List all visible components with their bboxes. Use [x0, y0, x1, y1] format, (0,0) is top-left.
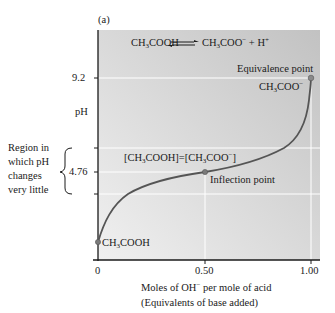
- equality-label: [CH3COOH]=[CH3COO−]: [124, 152, 236, 163]
- y-tick-4.76: 4.76: [69, 166, 87, 177]
- equivalence-point-marker: [308, 75, 314, 81]
- panel-label: (a): [98, 14, 110, 25]
- equivalence-point-label: Equivalence point: [237, 63, 313, 74]
- x-tick-0: 0: [95, 265, 100, 276]
- region-annotation: Region in which pH changes very little: [8, 141, 49, 197]
- inflection-point-marker: [202, 169, 207, 174]
- reaction-equation: CH3COOH: [131, 37, 179, 48]
- x-tick-0.50: 0.50: [195, 265, 213, 276]
- x-axis-label-line1: Moles of OH− per mole of acid: [141, 282, 272, 293]
- start-point: [95, 239, 100, 244]
- y-axis-label: pH: [75, 106, 88, 117]
- x-axis-label-line2: (Equivalents of base added): [141, 297, 258, 308]
- x-tick-1.00: 1.00: [300, 265, 318, 276]
- inflection-point-label: Inflection point: [210, 174, 275, 185]
- start-species-label: CH3COOH: [102, 237, 150, 248]
- reaction-products: CH3COO− + H+: [202, 37, 269, 48]
- equivalence-species-label: CH3COO−: [259, 81, 303, 92]
- reaction-reactant: CH3COOH: [131, 37, 179, 48]
- y-tick-9.2: 9.2: [72, 72, 85, 83]
